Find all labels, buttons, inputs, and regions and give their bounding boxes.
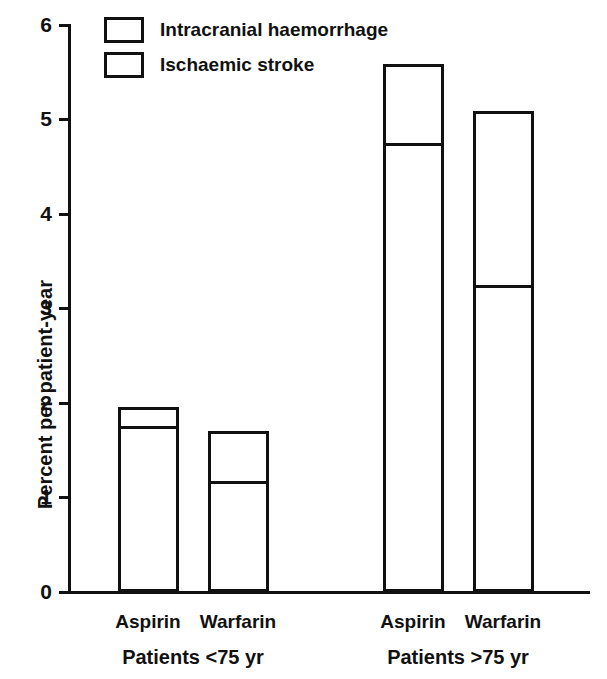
- stacked-bar-chart: Intracranial haemorrhage Ischaemic strok…: [0, 0, 607, 679]
- legend-label-ischaemic-stroke: Ischaemic stroke: [160, 54, 314, 76]
- x-axis-label-warfarin-under75: Warfarin: [188, 611, 288, 633]
- y-axis-tick-label-0: 0: [0, 581, 52, 602]
- bar-segment-intracranial-haemorrhage: [473, 111, 534, 285]
- bar-segment-intracranial-haemorrhage: [208, 431, 269, 481]
- bar-aspirin-under75: [118, 407, 179, 592]
- x-axis-label-warfarin-over75: Warfarin: [453, 611, 553, 633]
- x-axis-group-label-under75: Patients <75 yr: [93, 646, 293, 669]
- y-axis-tick-1: [59, 496, 69, 499]
- bar-segment-ischaemic-stroke: [208, 481, 269, 592]
- legend-swatch-stipple-icon: [104, 52, 144, 78]
- y-axis-tick-3: [59, 307, 69, 310]
- bar-segment-intracranial-haemorrhage: [118, 407, 179, 426]
- y-axis-tick-4: [59, 213, 69, 216]
- y-axis-tick-6: [59, 24, 69, 27]
- bar-aspirin-over75: [383, 64, 444, 592]
- bar-segment-intracranial-haemorrhage: [383, 64, 444, 143]
- y-axis-tick-2: [59, 402, 69, 405]
- bar-segment-ischaemic-stroke: [118, 426, 179, 592]
- bar-warfarin-under75: [208, 431, 269, 592]
- legend-label-intracranial-haemorrhage: Intracranial haemorrhage: [160, 19, 388, 41]
- y-axis-tick-label-6: 6: [0, 14, 52, 35]
- y-axis-title: Percent per patient-year: [34, 245, 57, 545]
- x-axis-label-aspirin-over75: Aspirin: [363, 611, 463, 633]
- y-axis-tick-5: [59, 118, 69, 121]
- x-axis-line: [68, 591, 590, 594]
- y-axis-tick-label-5: 5: [0, 108, 52, 129]
- legend-swatch-white-icon: [104, 17, 144, 43]
- bar-segment-ischaemic-stroke: [473, 285, 534, 592]
- x-axis-label-aspirin-under75: Aspirin: [98, 611, 198, 633]
- bar-warfarin-over75: [473, 111, 534, 592]
- x-axis-group-label-over75: Patients >75 yr: [358, 646, 558, 669]
- y-axis-tick-label-4: 4: [0, 203, 52, 224]
- bar-segment-ischaemic-stroke: [383, 143, 444, 592]
